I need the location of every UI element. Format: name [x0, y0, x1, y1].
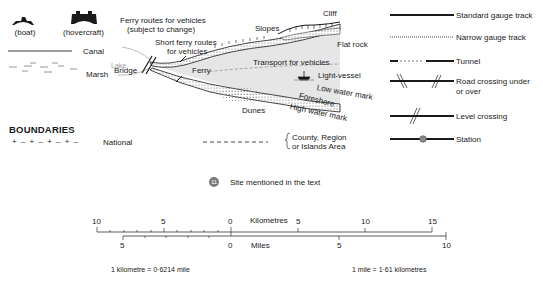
scale-bar-lines: [0, 0, 543, 301]
km-tick-10-left: 10: [92, 217, 101, 226]
km-tick-10: 10: [361, 217, 370, 226]
km-tick-15: 15: [428, 217, 437, 226]
mile-to-km-conversion: 1 mile = 1·61 kilometres: [352, 265, 427, 274]
mile-tick-5-left: 5: [120, 241, 124, 250]
mile-tick-10: 10: [442, 241, 451, 250]
km-label: Kilometres: [250, 216, 288, 225]
miles-label: Miles: [251, 241, 270, 250]
km-tick-5: 5: [296, 217, 300, 226]
mile-tick-5: 5: [337, 241, 341, 250]
km-tick-5-left: 5: [161, 217, 165, 226]
mile-tick-0: 0: [228, 241, 232, 250]
km-tick-0: 0: [228, 217, 232, 226]
km-to-mile-conversion: 1 kilometre = 0·6214 mile: [111, 265, 190, 274]
